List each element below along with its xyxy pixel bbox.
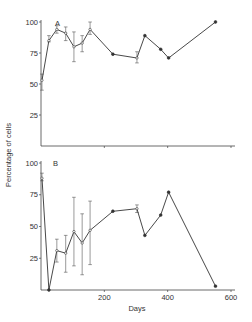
data-point: [136, 208, 138, 210]
data-point: [214, 285, 217, 288]
data-point: [65, 252, 67, 254]
data-line: [42, 22, 216, 80]
x-tick-label: 200: [98, 293, 111, 302]
figure: 255075100 255075100200400600 Percentage …: [0, 0, 252, 322]
data-point: [159, 48, 162, 51]
y-tick-label: 75: [30, 49, 38, 58]
data-point: [81, 242, 83, 244]
data-point: [143, 234, 146, 237]
y-tick-label: 100: [25, 159, 38, 168]
data-point: [56, 28, 58, 30]
panel-b-plot: 255075100200400600: [25, 159, 237, 303]
data-point: [81, 42, 83, 44]
data-point: [111, 210, 114, 213]
data-point: [48, 39, 50, 41]
data-point: [65, 32, 67, 34]
panel-a-plot: 255075100: [25, 18, 235, 149]
data-point: [73, 230, 75, 232]
x-axis-label: Days: [128, 304, 145, 313]
y-tick-label: 100: [25, 18, 38, 27]
x-tick-label: 600: [225, 293, 238, 302]
data-point: [214, 21, 217, 24]
data-point: [167, 191, 170, 194]
data-point: [111, 53, 114, 56]
panel-b-label: B: [53, 159, 58, 168]
data-point: [48, 289, 51, 292]
y-tick-label: 50: [30, 222, 38, 231]
data-point: [41, 177, 43, 179]
data-point: [167, 57, 170, 60]
y-tick-label: 25: [30, 111, 38, 120]
data-point: [136, 57, 138, 59]
y-axis-label: Percentage of cells: [4, 123, 13, 187]
y-tick-label: 25: [30, 254, 38, 263]
data-point: [89, 28, 91, 30]
data-point: [41, 79, 43, 81]
y-tick-label: 50: [30, 80, 38, 89]
data-point: [56, 249, 58, 251]
data-point: [143, 34, 146, 37]
panel-a-label: A: [55, 19, 60, 28]
data-point: [73, 46, 75, 48]
y-tick-label: 75: [30, 190, 38, 199]
data-point: [159, 214, 162, 217]
data-point: [89, 229, 91, 231]
data-line: [42, 178, 216, 290]
x-tick-label: 400: [161, 293, 174, 302]
